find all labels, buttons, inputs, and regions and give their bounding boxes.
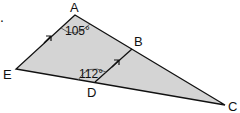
vertex-label-b: B [134,34,143,49]
leading-mark: . [0,9,4,25]
vertex-label-e: E [3,67,12,82]
vertex-label-d: D [87,85,96,100]
vertex-label-c: C [228,99,237,113]
vertex-label-a: A [70,0,79,15]
angle-label-d: 112° [79,67,103,81]
angle-label-a: 105° [65,24,90,38]
geometry-diagram: . A B C D E 105° 112° [0,0,240,113]
